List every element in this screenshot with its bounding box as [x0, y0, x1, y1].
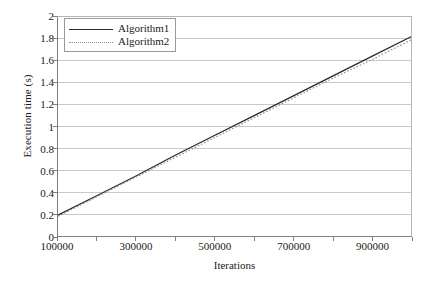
y-tick-label: 0.8: [20, 143, 54, 154]
y-axis-tick-marks: [53, 0, 61, 284]
legend-label-algorithm1: Algorithm1: [118, 23, 169, 34]
y-tick-label: 1.4: [20, 77, 54, 88]
legend[interactable]: Algorithm1 Algorithm2: [64, 18, 176, 52]
legend-line-sample-solid-icon: [69, 23, 113, 34]
y-tick-label: 0.6: [20, 165, 54, 176]
y-tick-label: 1.6: [20, 55, 54, 66]
plot-area: Algorithm1 Algorithm2: [57, 16, 412, 237]
legend-item-algorithm1[interactable]: Algorithm1: [69, 22, 169, 35]
legend-line-sample-dotted-icon: [69, 36, 113, 47]
y-tick-label: 1.8: [20, 33, 54, 44]
y-tick-label: 0.4: [20, 187, 54, 198]
line-chart: Execution time (s) 00.20.40.60.811.21.41…: [0, 0, 429, 284]
x-axis-tick-marks: [0, 237, 429, 245]
x-axis-title: Iterations: [57, 259, 412, 271]
y-tick-label: 0.2: [20, 209, 54, 220]
y-tick-label: 2: [20, 11, 54, 22]
legend-item-algorithm2[interactable]: Algorithm2: [69, 35, 169, 48]
y-tick-label: 1.2: [20, 99, 54, 110]
y-tick-label: 1: [20, 121, 54, 132]
legend-label-algorithm2: Algorithm2: [118, 36, 169, 47]
